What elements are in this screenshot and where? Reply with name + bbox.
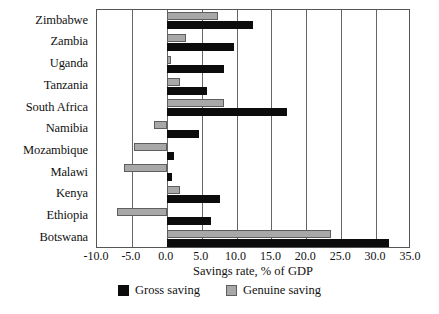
legend-label: Gross saving xyxy=(135,283,200,298)
bar-genuine-saving xyxy=(117,208,167,216)
y-axis-label: Zimbabwe xyxy=(0,9,92,31)
bar-row xyxy=(97,97,409,119)
x-tick-label: 0.0 xyxy=(158,249,173,264)
bar-genuine-saving xyxy=(154,121,167,129)
bar-gross-saving xyxy=(167,195,221,203)
bar-genuine-saving xyxy=(167,12,218,20)
y-axis-label: Tanzania xyxy=(0,74,92,96)
x-tick-label: 15.0 xyxy=(260,249,281,264)
y-axis-label: South Africa xyxy=(0,96,92,118)
legend-label: Genuine saving xyxy=(243,283,321,298)
bar-genuine-saving xyxy=(167,186,180,194)
x-tick-label: -10.0 xyxy=(84,249,109,264)
bar-row xyxy=(97,75,409,97)
bar-genuine-saving xyxy=(167,99,224,107)
savings-rate-bar-chart: ZimbabweZambiaUgandaTanzaniaSouth Africa… xyxy=(0,0,439,314)
bar-row xyxy=(97,227,409,249)
bar-genuine-saving xyxy=(167,56,171,64)
bar-gross-saving xyxy=(167,65,224,73)
y-axis-label: Namibia xyxy=(0,118,92,140)
x-tick-label: 30.0 xyxy=(365,249,386,264)
plot-area xyxy=(96,9,410,248)
bar-row xyxy=(97,119,409,141)
x-axis-title: Savings rate, % of GDP xyxy=(96,264,410,279)
x-tick-label: 5.0 xyxy=(193,249,208,264)
bar-row xyxy=(97,206,409,228)
bar-genuine-saving xyxy=(124,164,167,172)
x-tick-label: 25.0 xyxy=(330,249,351,264)
y-axis-label: Mozambique xyxy=(0,139,92,161)
bar-genuine-saving xyxy=(167,34,186,42)
y-axis-label: Botswana xyxy=(0,226,92,248)
bar-gross-saving xyxy=(167,130,199,138)
bar-row xyxy=(97,184,409,206)
bar-row xyxy=(97,140,409,162)
legend-entry: Genuine saving xyxy=(226,283,321,298)
y-axis-label: Malawi xyxy=(0,161,92,183)
legend-entry: Gross saving xyxy=(118,283,200,298)
black-square-icon xyxy=(118,285,129,296)
bar-gross-saving xyxy=(167,173,173,181)
bar-gross-saving xyxy=(167,239,389,247)
y-axis-category-labels: ZimbabweZambiaUgandaTanzaniaSouth Africa… xyxy=(0,9,92,248)
x-tick-label: 35.0 xyxy=(400,249,421,264)
y-axis-label: Uganda xyxy=(0,52,92,74)
chart-legend: Gross savingGenuine saving xyxy=(0,283,439,298)
x-tick-label: 10.0 xyxy=(225,249,246,264)
bar-gross-saving xyxy=(167,217,212,225)
bar-genuine-saving xyxy=(167,230,332,238)
x-tick-label: -5.0 xyxy=(121,249,140,264)
bar-gross-saving xyxy=(167,43,234,51)
bar-gross-saving xyxy=(167,108,287,116)
bar-gross-saving xyxy=(167,21,253,29)
bar-gross-saving xyxy=(167,152,174,160)
bar-genuine-saving xyxy=(167,78,180,86)
bar-row xyxy=(97,162,409,184)
y-axis-label: Ethiopia xyxy=(0,205,92,227)
bar-rows xyxy=(97,10,409,247)
x-axis-tick-labels: -10.0-5.00.05.010.015.020.025.030.035.0 xyxy=(96,249,410,265)
bar-row xyxy=(97,53,409,75)
bar-row xyxy=(97,32,409,54)
bar-genuine-saving xyxy=(134,143,167,151)
x-tick-label: 20.0 xyxy=(295,249,316,264)
y-axis-label: Kenya xyxy=(0,183,92,205)
bar-row xyxy=(97,10,409,32)
bar-gross-saving xyxy=(167,87,207,95)
y-axis-label: Zambia xyxy=(0,31,92,53)
grey-square-icon xyxy=(226,285,237,296)
